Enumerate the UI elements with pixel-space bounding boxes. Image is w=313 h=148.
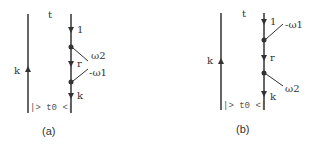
caption-a: (a) bbox=[42, 125, 55, 137]
down-arrow-icon bbox=[261, 19, 267, 25]
left-line-label-a: k bbox=[14, 65, 21, 76]
top-label-b: t bbox=[242, 8, 246, 19]
segment-label-k-a: k bbox=[77, 90, 84, 101]
vertex-dot bbox=[69, 80, 74, 85]
vertex-dot bbox=[69, 45, 74, 50]
bottom-label-a: |> t0 <| bbox=[30, 103, 73, 113]
segment-label-r-a: r bbox=[77, 58, 82, 69]
down-arrow-icon bbox=[68, 27, 74, 33]
vertex-label-omega2-a: ω2 bbox=[91, 50, 106, 61]
vertex-leg-b-2 bbox=[266, 74, 283, 86]
segment-label-1-a: 1 bbox=[77, 24, 83, 35]
segment-label-k-b: k bbox=[270, 91, 277, 102]
bottom-label-b: |> t0 <| bbox=[223, 101, 266, 111]
down-arrow-icon bbox=[261, 55, 267, 61]
vertex-dot bbox=[262, 38, 267, 43]
left-line-label-b: k bbox=[207, 55, 214, 66]
down-arrow-icon bbox=[261, 91, 267, 97]
vertex-label-minus-omega1-a: -ω1 bbox=[89, 67, 107, 78]
down-arrow-icon bbox=[68, 93, 74, 99]
up-arrow-icon bbox=[218, 58, 224, 64]
feynman-diagrams: k t 1 r k ω2 -ω1 |> t0 <| (a) k t 1 r k bbox=[0, 0, 313, 148]
diagram-a: k t 1 r k ω2 -ω1 |> t0 <| (a) bbox=[14, 9, 107, 137]
segment-label-r-b: r bbox=[270, 52, 275, 63]
down-arrow-icon bbox=[68, 61, 74, 67]
up-arrow-icon bbox=[25, 66, 31, 72]
vertex-dot bbox=[262, 71, 267, 76]
vertex-leg-a-2 bbox=[73, 69, 88, 81]
vertex-label-omega2-b: ω2 bbox=[285, 83, 300, 94]
diagram-b: k t 1 r k -ω1 ω2 |> t0 <| (b) bbox=[207, 8, 303, 135]
segment-label-1-b: 1 bbox=[270, 16, 276, 27]
top-label-a: t bbox=[48, 9, 52, 20]
vertex-label-minus-omega1-b: -ω1 bbox=[285, 19, 303, 30]
caption-b: (b) bbox=[236, 123, 249, 135]
